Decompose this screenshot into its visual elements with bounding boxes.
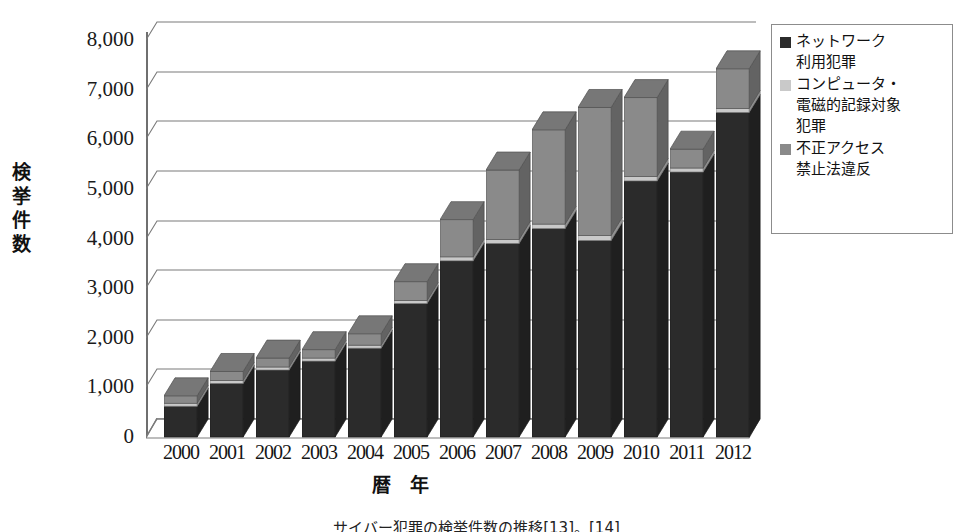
bar-column[interactable]: [348, 0, 396, 443]
bar-segment-ネットワーク利用犯罪[interactable]: [532, 211, 576, 437]
bar-segment-ネットワーク利用犯罪[interactable]: [394, 286, 438, 437]
bar-segment-ネットワーク利用犯罪[interactable]: [440, 243, 484, 437]
bar-segment-不正アクセス禁止法違反[interactable]: [624, 80, 668, 177]
x-tick-label: 2008: [524, 441, 574, 463]
legend-item: 不正アクセス 禁止法違反: [780, 138, 952, 180]
bar-column[interactable]: [210, 0, 258, 443]
legend-item: コンピュータ・ 電磁的記録対象 犯罪: [780, 74, 952, 137]
bar-segment-不正アクセス禁止法違反[interactable]: [716, 51, 760, 109]
bar-column[interactable]: [486, 0, 534, 443]
figure: 検 挙 件 数 8,0007,0006,0005,0004,0003,0002,…: [0, 0, 953, 532]
figure-caption: サイバー犯罪の検挙件数の推移[13]。[14]: [0, 516, 953, 532]
legend-swatch-network-crime: [780, 37, 791, 48]
legend-swatch-unauthorized-access: [780, 144, 791, 155]
x-tick-label: 2005: [386, 441, 436, 463]
bar-segment-ネットワーク利用犯罪[interactable]: [624, 163, 668, 437]
bar-column[interactable]: [394, 0, 442, 443]
bar-column[interactable]: [716, 0, 764, 443]
x-tick-label: 2001: [202, 441, 252, 463]
x-tick-label: 2011: [662, 441, 712, 463]
x-tick-label: 2010: [616, 441, 666, 463]
legend-item: ネットワーク 利用犯罪: [780, 31, 952, 73]
legend-label: コンピュータ・ 電磁的記録対象 犯罪: [796, 74, 901, 137]
x-tick-label: 2002: [248, 441, 298, 463]
bar-column[interactable]: [256, 0, 304, 443]
bar-segment-ネットワーク利用犯罪[interactable]: [716, 94, 760, 437]
x-tick-label: 2000: [156, 441, 206, 463]
bar-column[interactable]: [302, 0, 350, 443]
bar-segment-不正アクセス禁止法違反[interactable]: [578, 89, 622, 235]
plot-area: 8,0007,0006,0005,0004,0003,0002,0001,000…: [0, 0, 770, 470]
legend-label: 不正アクセス 禁止法違反: [796, 138, 885, 180]
x-tick-label: 2004: [340, 441, 390, 463]
bar-column[interactable]: [440, 0, 488, 443]
bar-series-group: [0, 0, 770, 470]
x-tick-label: 2012: [708, 441, 758, 463]
bar-segment-ネットワーク利用犯罪[interactable]: [578, 222, 622, 437]
bar-segment-不正アクセス禁止法違反[interactable]: [486, 152, 530, 239]
bar-segment-ネットワーク利用犯罪[interactable]: [670, 154, 714, 437]
x-axis-title: 暦 年: [300, 470, 500, 497]
bar-segment-ネットワーク利用犯罪[interactable]: [486, 225, 530, 437]
bar-segment-不正アクセス禁止法違反[interactable]: [532, 112, 576, 224]
legend-swatch-computer-record-crime: [780, 80, 791, 91]
x-tick-label: 2003: [294, 441, 344, 463]
bar-column[interactable]: [532, 0, 580, 443]
bar-column[interactable]: [164, 0, 212, 443]
x-tick-label: 2009: [570, 441, 620, 463]
x-tick-label: 2007: [478, 441, 528, 463]
bar-column[interactable]: [670, 0, 718, 443]
bar-segment-不正アクセス禁止法違反[interactable]: [440, 202, 484, 257]
x-tick-label: 2006: [432, 441, 482, 463]
legend: ネットワーク 利用犯罪 コンピュータ・ 電磁的記録対象 犯罪 不正アクセス 禁止…: [771, 24, 953, 234]
bar-column[interactable]: [624, 0, 672, 443]
bar-column[interactable]: [578, 0, 626, 443]
legend-label: ネットワーク 利用犯罪: [796, 31, 886, 73]
